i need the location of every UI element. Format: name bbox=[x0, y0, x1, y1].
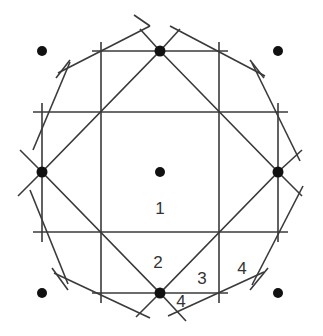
dot-center bbox=[155, 167, 165, 177]
edge-lower-left bbox=[30, 190, 68, 284]
dot-corner-top-right bbox=[273, 46, 283, 56]
region-label-3: 3 bbox=[197, 269, 206, 288]
edge-upper-left bbox=[33, 62, 70, 150]
diagram-canvas: 1 2 3 4 4 bbox=[0, 0, 323, 336]
edge-top-left bbox=[58, 26, 150, 73]
edge-bottom-left bbox=[54, 273, 150, 318]
tick-top-left bbox=[134, 15, 150, 26]
dot-corner-bottom-right bbox=[273, 288, 283, 298]
dot-corner-bottom-left bbox=[37, 288, 47, 298]
dot-corner-top-left bbox=[37, 46, 47, 56]
dot-bottom bbox=[155, 288, 166, 299]
region-labels: 1 2 3 4 4 bbox=[153, 199, 246, 311]
region-label-2: 2 bbox=[153, 253, 162, 272]
region-label-4b: 4 bbox=[176, 292, 185, 311]
lattice-diagram: 1 2 3 4 4 bbox=[0, 0, 323, 336]
dot-top bbox=[155, 46, 166, 57]
region-label-1: 1 bbox=[155, 199, 164, 218]
region-label-4a: 4 bbox=[237, 259, 246, 278]
dot-right bbox=[273, 167, 284, 178]
dot-left bbox=[37, 167, 48, 178]
